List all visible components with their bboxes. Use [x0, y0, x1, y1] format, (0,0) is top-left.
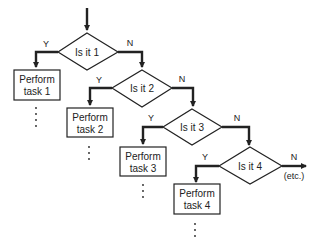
- task-2-line2: task 2: [77, 124, 104, 135]
- etc-label: (etc.): [284, 171, 305, 181]
- continuation-dots-2: [88, 146, 90, 160]
- no-label-2: N: [179, 74, 186, 84]
- decision-1-label: Is it 1: [75, 47, 99, 58]
- no-label-1: N: [127, 38, 134, 48]
- yes-label-2: Y: [96, 75, 102, 85]
- no-arrow-3: [222, 127, 249, 145]
- decision-4: Is it 4: [219, 147, 282, 184]
- task-3-line2: task 3: [130, 163, 157, 174]
- decision-4-label: Is it 4: [238, 161, 262, 172]
- yes-arrow-3: [143, 127, 163, 144]
- no-label-3: N: [234, 113, 241, 123]
- task-3-box: Perform task 3: [120, 147, 166, 176]
- flowchart: Is it 1 Y N Perform task 1 Is it 2 Y N P…: [0, 0, 318, 247]
- task-4-line1: Perform: [179, 188, 215, 199]
- no-arrow-2: [172, 88, 193, 106]
- task-4-box: Perform task 4: [174, 184, 220, 214]
- yes-label-4: Y: [202, 152, 208, 162]
- continuation-dots-1: [35, 107, 37, 127]
- task-1-box: Perform task 1: [14, 70, 60, 100]
- task-1-line2: task 1: [24, 86, 51, 97]
- task-2-box: Perform task 2: [67, 108, 113, 137]
- decision-2-label: Is it 2: [130, 83, 154, 94]
- task-2-line1: Perform: [72, 112, 108, 123]
- task-4-line2: task 4: [184, 200, 211, 211]
- continuation-dots-4: [194, 223, 196, 237]
- decision-2: Is it 2: [112, 70, 172, 107]
- yes-arrow-1: [36, 52, 58, 67]
- decision-3-label: Is it 3: [180, 122, 204, 133]
- task-3-line1: Perform: [125, 151, 161, 162]
- no-label-4: N: [291, 152, 298, 162]
- yes-label-3: Y: [148, 113, 154, 123]
- no-arrow-1: [118, 52, 142, 67]
- yes-arrow-2: [90, 88, 112, 105]
- continuation-dots-3: [142, 184, 144, 198]
- task-1-line1: Perform: [19, 74, 55, 85]
- decision-1: Is it 1: [58, 33, 118, 70]
- yes-arrow-4: [196, 166, 219, 182]
- decision-3: Is it 3: [163, 109, 222, 145]
- yes-label-1: Y: [43, 39, 49, 49]
